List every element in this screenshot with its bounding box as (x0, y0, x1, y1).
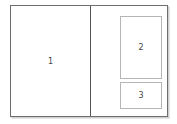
region-3-box: 3 (120, 82, 162, 109)
left-page: 1 (11, 6, 91, 116)
book-spread: 1 2 3 (10, 5, 168, 117)
region-3-label: 3 (138, 91, 143, 100)
region-2-label: 2 (138, 43, 143, 52)
region-1: 1 (11, 6, 90, 116)
right-page: 2 3 (91, 6, 167, 116)
region-2-box: 2 (120, 16, 162, 79)
region-1-label: 1 (48, 57, 53, 66)
diagram-canvas: 1 2 3 (0, 0, 177, 124)
